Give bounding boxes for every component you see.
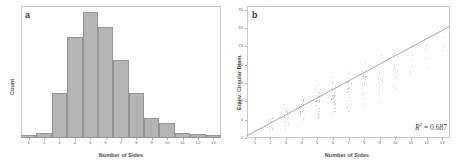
x-tick-label: 7: [343, 141, 355, 145]
histogram-bar: [67, 37, 82, 138]
y-tick-mark: [245, 65, 247, 66]
x-tick-label: 12: [421, 141, 433, 145]
r-squared-value: = 0.687: [422, 123, 447, 132]
y-tick-mark: [245, 10, 247, 11]
histogram-bar: [98, 27, 113, 138]
histogram-bar: [129, 93, 144, 138]
x-tick-label: 2: [38, 141, 50, 145]
histogram-bar: [113, 60, 128, 138]
x-tick-label: 8: [358, 141, 370, 145]
regression-line-path: [247, 26, 450, 136]
regression-line: [247, 6, 450, 138]
x-tick-label: 3: [280, 141, 292, 145]
y-tick-mark: [245, 101, 247, 102]
y-tick-mark: [245, 83, 247, 84]
panel-b-x-axis-title: Number of Sides: [247, 152, 447, 158]
y-tick-label: 5: [233, 118, 243, 122]
x-tick-label: 12: [192, 141, 204, 145]
y-tick-label: 25: [233, 44, 243, 48]
x-tick-label: 6: [100, 141, 112, 145]
y-tick-label: 0: [233, 136, 243, 140]
x-tick-label: 13: [436, 141, 448, 145]
x-tick-label: 11: [405, 141, 417, 145]
panel-b-scatter: b 12345678910111213 05101520253035 Numbe…: [228, 0, 457, 164]
panel-a-y-axis-title: Count: [9, 79, 15, 95]
x-tick-label: 5: [84, 141, 96, 145]
y-tick-mark: [245, 28, 247, 29]
x-tick-label: 4: [69, 141, 81, 145]
y-tick-mark: [245, 120, 247, 121]
x-tick-label: 8: [130, 141, 142, 145]
y-tick-label: 30: [233, 26, 243, 30]
y-tick-mark: [245, 46, 247, 47]
x-tick-label: 1: [249, 141, 261, 145]
panel-b-y-axis-title: Equiv. Circular Diam.: [236, 54, 242, 110]
histogram-bar: [52, 93, 67, 138]
panel-a-histogram: a 12345678910111213 Number of Sides Coun…: [0, 0, 228, 164]
two-panel-figure: a 12345678910111213 Number of Sides Coun…: [0, 0, 457, 164]
panel-a-letter: a: [25, 11, 30, 20]
x-tick-label: 9: [146, 141, 158, 145]
x-tick-label: 5: [311, 141, 323, 145]
x-tick-label: 10: [161, 141, 173, 145]
histogram-bar: [159, 123, 174, 138]
x-tick-label: 9: [374, 141, 386, 145]
panel-a-x-axis-title: Number of Sides: [21, 152, 221, 158]
x-tick-label: 3: [53, 141, 65, 145]
y-tick-mark: [245, 138, 247, 139]
x-tick-label: 2: [264, 141, 276, 145]
y-tick-label: 35: [233, 8, 243, 12]
r-squared-annotation: R2 = 0.687: [415, 122, 447, 132]
x-tick-label: 13: [207, 141, 219, 145]
x-tick-label: 10: [389, 141, 401, 145]
histogram-bar: [83, 12, 98, 138]
x-tick-label: 4: [296, 141, 308, 145]
x-tick-label: 11: [177, 141, 189, 145]
x-tick-label: 6: [327, 141, 339, 145]
x-tick-label: 1: [23, 141, 35, 145]
histogram-bar: [144, 118, 159, 138]
x-tick-label: 7: [115, 141, 127, 145]
